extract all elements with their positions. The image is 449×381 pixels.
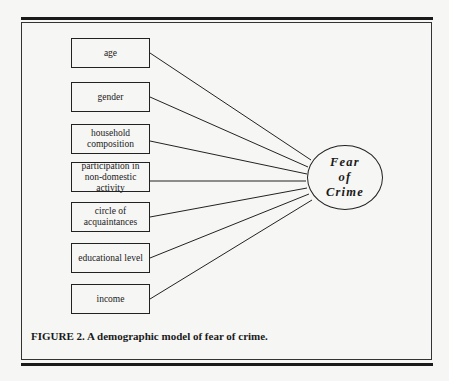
link-age <box>150 53 311 160</box>
node-gender: gender <box>71 82 150 112</box>
node-income: income <box>71 284 150 314</box>
node-label: educational level <box>78 253 143 264</box>
link-household <box>150 141 307 174</box>
link-income <box>150 200 312 299</box>
outcome-label: Fear of Crime <box>326 155 364 200</box>
link-circle <box>150 188 307 217</box>
outcome-fear-of-crime: Fear of Crime <box>307 145 383 210</box>
node-circle-of-acquaintances: circle of acquaintances <box>71 202 150 232</box>
node-household-composition: household composition <box>71 124 150 154</box>
link-educational <box>150 194 309 258</box>
bottom-rule <box>21 363 433 366</box>
node-label: gender <box>98 92 124 103</box>
node-label: circle of acquaintances <box>74 206 147 228</box>
path-arrows <box>0 0 449 381</box>
figure-caption: FIGURE 2. A demographic model of fear of… <box>31 330 268 342</box>
node-label: participation in non-domestic activity <box>74 161 147 194</box>
node-label: household composition <box>74 128 147 150</box>
node-age: age <box>71 38 150 68</box>
link-gender <box>150 97 308 167</box>
node-label: income <box>97 294 125 305</box>
node-educational-level: educational level <box>71 243 150 273</box>
node-label: age <box>104 48 117 59</box>
node-participation: participation in non-domestic activity <box>71 162 150 192</box>
